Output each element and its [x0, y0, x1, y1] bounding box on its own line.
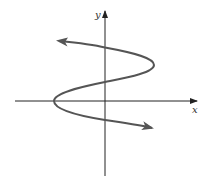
- x-axis-label: x: [192, 104, 198, 115]
- graph-canvas: y x: [0, 0, 208, 184]
- y-axis-label: y: [94, 9, 101, 20]
- curve: [54, 41, 154, 128]
- graph-svg: y x: [0, 0, 208, 184]
